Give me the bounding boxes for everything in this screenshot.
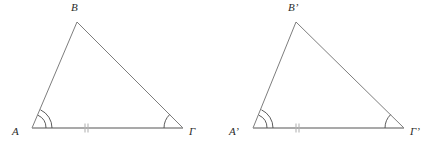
triangle-right-group: [253, 22, 404, 133]
triangle-left-group: [32, 22, 183, 133]
side-AB-prime: [253, 22, 296, 128]
side-BG: [77, 22, 183, 128]
side-BG-prime: [296, 22, 404, 128]
angle-arc-gamma-prime: [385, 115, 391, 128]
side-AB: [32, 22, 77, 128]
geometry-figure: A B Γ A’ B’ Γ’: [0, 0, 434, 146]
vertex-label-A-prime: A’: [229, 126, 239, 137]
angle-arc-A: [38, 110, 52, 128]
vertex-label-B: B: [71, 2, 78, 13]
vertex-label-A: A: [12, 126, 19, 137]
vertex-label-gamma-prime: Γ’: [410, 126, 420, 137]
vertex-label-gamma: Γ: [189, 126, 195, 137]
vertex-label-B-prime: B’: [288, 2, 298, 13]
angle-arc-gamma: [164, 115, 170, 128]
figure-canvas: [0, 0, 434, 146]
angle-arc-A-prime: [259, 110, 273, 128]
